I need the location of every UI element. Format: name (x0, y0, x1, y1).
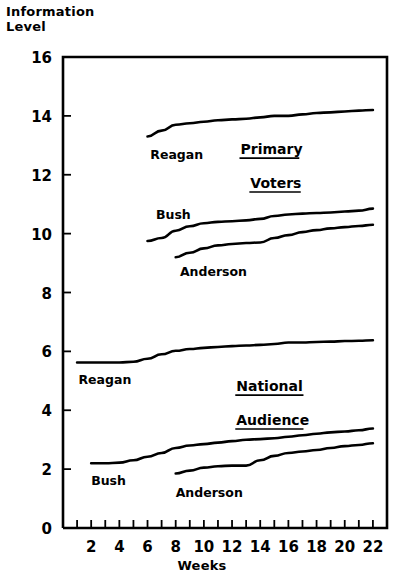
y-tick-label: 16 (31, 49, 52, 67)
series-line-anderson-primary-voters (176, 225, 373, 257)
y-axis-title: InformationLevel (6, 4, 94, 34)
x-tick-label: 14 (250, 538, 271, 556)
chart-axes (63, 57, 387, 528)
chart-tick-labels: 0246810121416246810121416182022 (31, 49, 383, 556)
series-label-reagan: Reagan (150, 147, 203, 162)
axis-frame (63, 57, 387, 528)
y-tick-label: 0 (42, 520, 52, 538)
x-tick-label: 10 (193, 538, 214, 556)
y-tick-label: 12 (31, 167, 52, 185)
series-line-anderson-national-audience (176, 443, 373, 473)
chart-plot-area: 0246810121416246810121416182022 ReaganPr… (0, 0, 404, 587)
y-tick-label: 4 (42, 402, 52, 420)
group-label-national: National (236, 378, 303, 394)
x-tick-label: 16 (278, 538, 299, 556)
series-label-reagan: Reagan (78, 372, 131, 387)
y-tick-label: 10 (31, 226, 52, 244)
x-tick-label: 18 (306, 538, 327, 556)
x-tick-label: 12 (222, 538, 243, 556)
x-tick-label: 8 (170, 538, 180, 556)
series-line-reagan-national-audience (77, 340, 373, 362)
y-axis-title-line1: Information (6, 4, 94, 19)
x-axis-title: Weeks (0, 558, 404, 573)
series-label-anderson: Anderson (180, 264, 247, 279)
y-tick-label: 2 (42, 461, 52, 479)
y-tick-label: 6 (42, 343, 52, 361)
group-label-voters: Voters (250, 175, 301, 191)
series-line-reagan-primary-voters (148, 110, 373, 136)
chart-figure: InformationLevel Weeks 02468101214162468… (0, 0, 404, 587)
x-tick-label: 22 (362, 538, 383, 556)
group-label-primary: Primary (240, 141, 302, 157)
x-tick-label: 2 (86, 538, 96, 556)
chart-series-curves (77, 110, 373, 474)
series-label-bush: Bush (91, 473, 126, 488)
group-label-audience: Audience (236, 412, 309, 428)
series-label-bush: Bush (156, 207, 191, 222)
series-label-anderson: Anderson (176, 485, 243, 500)
series-line-bush-national-audience (91, 429, 373, 464)
x-tick-label: 6 (142, 538, 152, 556)
x-tick-label: 20 (334, 538, 355, 556)
x-tick-label: 4 (114, 538, 124, 556)
y-tick-label: 14 (31, 108, 52, 126)
y-tick-label: 8 (42, 285, 52, 303)
y-axis-title-line2: Level (6, 19, 46, 34)
